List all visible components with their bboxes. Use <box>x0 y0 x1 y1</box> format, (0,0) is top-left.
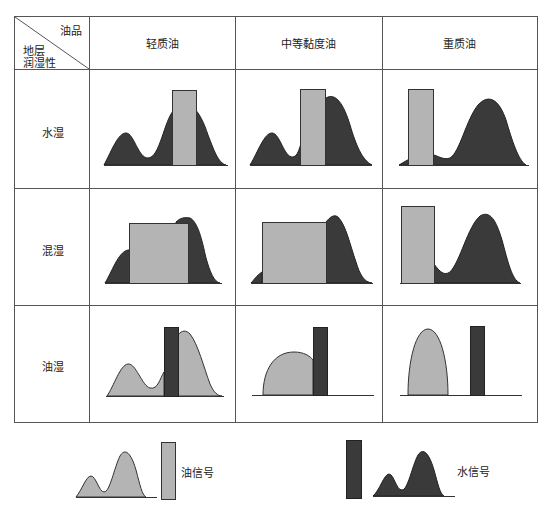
water-signal-bar <box>347 441 362 499</box>
legend-oil-signal-label: 油信号 <box>181 467 214 480</box>
cell-mixed-wet-medium-oil <box>251 216 373 284</box>
oil-signal-bar <box>130 224 189 284</box>
legend-water-signal <box>347 441 456 499</box>
cell-oil-wet-light-oil <box>106 328 224 397</box>
oil-signal-bar <box>162 443 176 500</box>
cell-mixed-wet-light-oil <box>105 218 222 284</box>
legend-water-signal-label: 水信号 <box>457 466 490 479</box>
water-signal-bar <box>471 327 485 396</box>
row-header-water-wet: 水湿 <box>42 124 64 140</box>
corner-wettability-label-line2: 润湿性 <box>23 57 56 70</box>
nmr-wettability-diagram: 油品 地层 润湿性 轻质油 中等黏度油 重质油 水湿 混湿 油湿 油信号 水信号 <box>0 0 548 518</box>
oil-signal-bar <box>173 91 197 166</box>
oil-signal-bar <box>402 207 435 284</box>
legend-oil-signal <box>76 443 176 500</box>
corner-oil-type-label: 油品 <box>60 25 82 38</box>
cell-oil-wet-medium-oil <box>252 328 374 396</box>
diagram-canvas <box>0 0 548 518</box>
water-signal-bar <box>314 328 328 396</box>
row-header-oil-wet: 油湿 <box>42 358 64 374</box>
oil-signal-bar <box>301 90 326 166</box>
cell-water-wet-heavy-oil <box>399 90 529 166</box>
row-header-mixed-wet: 混湿 <box>42 242 64 258</box>
cell-water-wet-light-oil <box>104 91 228 166</box>
column-header-medium-viscosity-oil: 中等黏度油 <box>281 35 336 51</box>
cell-mixed-wet-heavy-oil <box>400 207 521 284</box>
oil-signal-curve <box>76 452 146 497</box>
cell-oil-wet-heavy-oil <box>400 327 522 396</box>
oil-signal-bar <box>409 90 434 166</box>
oil-signal-bar <box>263 223 327 284</box>
column-header-light-oil: 轻质油 <box>146 35 179 51</box>
water-signal-curve <box>373 452 444 496</box>
column-header-heavy-oil: 重质油 <box>443 35 476 51</box>
water-signal-bar <box>165 328 179 397</box>
cell-water-wet-medium-oil <box>250 90 372 166</box>
